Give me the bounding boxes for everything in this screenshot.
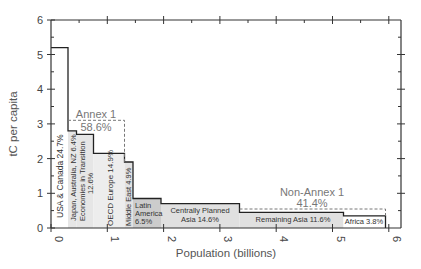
x-tick-labels: 0 1 2 3 4 5 6 — [53, 236, 403, 242]
label-cpa-1: Centrally Planned — [170, 206, 229, 215]
label-remaining-asia: Remaining Asia 11.6% — [256, 215, 331, 224]
region-fills — [51, 48, 386, 228]
annex1-title: Annex 1 — [76, 108, 116, 120]
svg-text:1: 1 — [37, 187, 43, 199]
label-oecd-europe: OECD Europe 14.9% — [106, 150, 115, 226]
svg-text:0: 0 — [37, 222, 43, 234]
label-japan-line3: 12.6% — [86, 172, 95, 194]
svg-text:6: 6 — [391, 236, 403, 242]
svg-text:0: 0 — [53, 236, 65, 242]
svg-text:4: 4 — [278, 236, 290, 242]
y-tick-labels: 0 1 2 3 4 5 6 — [37, 14, 43, 234]
svg-text:2: 2 — [166, 236, 178, 242]
svg-text:6: 6 — [37, 14, 43, 26]
label-africa: Africa 3.8% — [345, 217, 384, 226]
svg-text:3: 3 — [37, 118, 43, 130]
svg-text:4: 4 — [37, 83, 43, 95]
label-latin-america-3: 6.5% — [135, 217, 152, 226]
y-axis-title: tC per capita — [7, 91, 19, 157]
label-middle-east: Middle East 4.9% — [124, 167, 133, 226]
step-chart: 0 1 2 3 4 5 6 0 1 2 3 4 5 6 Population (… — [0, 0, 421, 269]
x-axis-title: Population (billions) — [176, 247, 277, 259]
svg-text:2: 2 — [37, 153, 43, 165]
label-cpa-2: Asia 14.6% — [181, 215, 219, 224]
svg-text:5: 5 — [335, 236, 347, 242]
non-annex1-share: 41.4% — [296, 197, 327, 209]
svg-text:3: 3 — [222, 236, 234, 242]
svg-text:5: 5 — [37, 49, 43, 61]
label-usa-canada: USA & Canada 24.7% — [55, 134, 65, 218]
annex1-share: 58.6% — [80, 121, 111, 133]
svg-text:1: 1 — [109, 236, 121, 242]
